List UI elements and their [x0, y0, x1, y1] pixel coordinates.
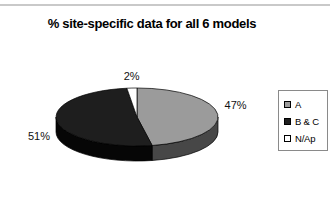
chart-page: % site-specific data for all 6 models 47…	[0, 0, 330, 201]
chart-legend: A B & C N/Ap	[278, 90, 328, 151]
legend-label-n-ap: N/Ap	[295, 133, 315, 144]
legend-swatch-a	[284, 101, 291, 108]
pie-pct-label-1: 51%	[28, 130, 50, 142]
legend-swatch-n-ap	[284, 135, 291, 142]
legend-item-a: A	[284, 96, 327, 113]
legend-label-a: A	[295, 99, 301, 110]
legend-swatch-b-and-c	[284, 118, 291, 125]
legend-item-b-and-c: B & C	[284, 113, 327, 130]
pie-pct-label-0: 47%	[225, 99, 247, 111]
pie-pct-label-2: 2%	[124, 70, 140, 82]
legend-label-b-and-c: B & C	[295, 116, 319, 127]
legend-item-n-ap: N/Ap	[284, 130, 327, 147]
